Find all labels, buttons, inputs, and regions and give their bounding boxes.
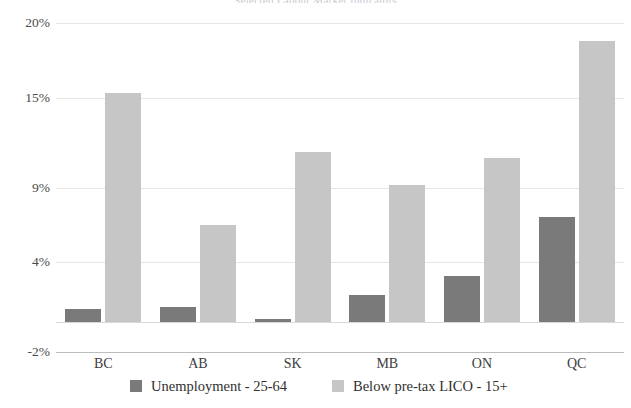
legend-item-0[interactable]: Unemployment - 25-64 [130,379,287,393]
bar-sk-series-0[interactable] [255,319,291,322]
legend-label: Unemployment - 25-64 [151,379,287,393]
y-tick-label: -2% [2,345,50,359]
x-tick-label-on: ON [435,356,530,372]
bar-group-mb [349,23,425,352]
bar-group-on [444,23,520,352]
bar-ab-series-0[interactable] [160,307,196,322]
bar-bc-series-0[interactable] [65,309,101,322]
y-tick-label: 4% [2,255,50,269]
bar-group-ab [160,23,236,352]
bar-mb-series-1[interactable] [389,185,425,323]
bar-bc-series-1[interactable] [105,93,141,322]
legend-swatch-icon [130,380,142,392]
x-tick-label-ab: AB [151,356,246,372]
x-tick-label-qc: QC [529,356,624,372]
bar-sk-series-1[interactable] [295,152,331,322]
x-tick-label-mb: MB [340,356,435,372]
legend-label: Below pre-tax LICO - 15+ [353,379,508,393]
bar-qc-series-0[interactable] [539,217,575,322]
bar-ab-series-1[interactable] [200,225,236,322]
x-tick-label-bc: BC [56,356,151,372]
bar-group-sk [255,23,331,352]
chart-title: Selected Labour Market Indicators [0,0,631,3]
bar-mb-series-0[interactable] [349,295,385,322]
chart-legend: Unemployment - 25-64Below pre-tax LICO -… [0,379,631,399]
y-tick-label: 15% [2,91,50,105]
bar-qc-series-1[interactable] [579,41,615,322]
bar-group-bc [65,23,141,352]
y-tick-label: 9% [2,181,50,195]
gridline--2% [56,352,624,353]
x-axis: BCABSKMBONQC [56,356,624,376]
legend-swatch-icon [332,380,344,392]
plot-area [56,23,624,352]
bar-on-series-1[interactable] [484,158,520,323]
bar-chart: Selected Labour Market Indicators 20%15%… [0,0,631,408]
bar-group-qc [539,23,615,352]
legend-item-1[interactable]: Below pre-tax LICO - 15+ [332,379,508,393]
x-tick-label-sk: SK [245,356,340,372]
y-tick-label: 20% [2,16,50,30]
bar-on-series-0[interactable] [444,276,480,322]
y-axis: 20%15%9%4%-2% [0,23,50,352]
